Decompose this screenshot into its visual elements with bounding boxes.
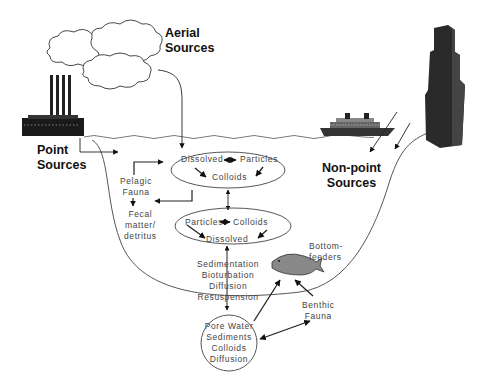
process-resuspension: Resuspension: [197, 292, 259, 303]
pore-line-4: Diffusion: [203, 354, 255, 365]
upper-colloids: Colloids: [212, 172, 247, 183]
process-sedimentation: Sedimentation: [197, 259, 259, 270]
pelagic-fauna-label: Pelagic Fauna: [120, 176, 152, 198]
point-line-1: Point: [37, 143, 86, 158]
pore-line-2: Sediments: [203, 332, 255, 343]
nonpoint-line-2: Sources: [322, 176, 381, 191]
aerial-line-2: Sources: [165, 41, 214, 56]
diagram-canvas: Aerial Sources Point Sources Non-point S…: [0, 0, 481, 385]
fecal-line-3: detritus: [124, 231, 157, 242]
lower-dissolved: Dissolved: [206, 234, 248, 245]
benthic-line-1: Benthic: [302, 300, 335, 311]
factory-icon: [22, 75, 84, 136]
aerial-arrow: [158, 70, 182, 148]
bottom-feeders-label: Bottom- feeders: [309, 241, 343, 263]
benthic-line-2: Fauna: [302, 311, 335, 322]
pelagic-line-2: Fauna: [120, 187, 152, 198]
skyscraper-icon: [425, 25, 465, 148]
pore-water-label: Pore Water Sediments Colloids Diffusion: [203, 321, 255, 365]
point-sources-label: Point Sources: [37, 143, 86, 173]
aerial-line-1: Aerial: [165, 26, 214, 41]
lower-colloids: Colloids: [233, 217, 268, 228]
benthic-fauna-label: Benthic Fauna: [302, 300, 335, 322]
bottom-feeders-line-2: feeders: [309, 252, 343, 263]
lower-particles: Particles: [185, 217, 223, 228]
fecal-matter-label: Fecal matter/ detritus: [124, 209, 157, 242]
fecal-line-1: Fecal: [124, 209, 157, 220]
process-bioturbation: Bioturbation: [197, 270, 259, 281]
processes-label: Sedimentation Bioturbation Diffusion Res…: [197, 259, 259, 303]
pelagic-line-1: Pelagic: [120, 176, 152, 187]
fecal-line-2: matter/: [124, 220, 157, 231]
upper-particles: Particles: [240, 154, 278, 165]
process-diffusion: Diffusion: [197, 281, 259, 292]
nonpoint-sources-label: Non-point Sources: [322, 161, 381, 191]
point-line-2: Sources: [37, 158, 86, 173]
pore-line-3: Colloids: [203, 343, 255, 354]
bottom-feeders-line-1: Bottom-: [309, 241, 343, 252]
nonpoint-arrow-2: [395, 123, 410, 149]
ship-icon: [320, 113, 395, 136]
pore-line-1: Pore Water: [203, 321, 255, 332]
aerial-sources-label: Aerial Sources: [165, 26, 214, 56]
nonpoint-line-1: Non-point: [322, 161, 381, 176]
upper-dissolved: Dissolved: [181, 154, 223, 165]
